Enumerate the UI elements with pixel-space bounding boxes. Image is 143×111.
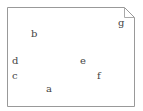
- label-b: b: [31, 29, 37, 39]
- label-g: g: [118, 18, 124, 28]
- label-f: f: [97, 71, 101, 81]
- label-d: d: [12, 56, 18, 66]
- label-c: c: [12, 71, 18, 81]
- label-e: e: [80, 56, 86, 66]
- label-a: a: [46, 84, 52, 94]
